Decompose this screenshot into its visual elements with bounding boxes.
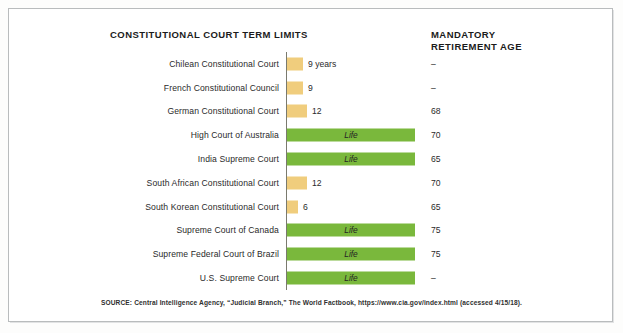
table-row: French Constitutional Council9– <box>0 76 623 100</box>
court-name-label: South African Constitutional Court <box>147 178 279 188</box>
bar-value-label: Life <box>287 130 415 140</box>
court-name-label: Supreme Court of Canada <box>176 225 279 235</box>
bar-value-label: Life <box>287 273 415 283</box>
mandatory-retirement-age-value: – <box>431 59 436 69</box>
bar-value-label: Life <box>287 154 415 164</box>
mandatory-retirement-age-value: 68 <box>431 106 441 116</box>
court-name-label: Chilean Constitutional Court <box>169 59 279 69</box>
plot-area: Chilean Constitutional Court9 years–Fren… <box>0 52 623 290</box>
bar-value-label: Life <box>287 249 415 259</box>
court-name-label: Supreme Federal Court of Brazil <box>153 249 279 259</box>
bar-value-label: 12 <box>312 178 322 188</box>
term-limit-bar <box>287 200 298 213</box>
table-row: U.S. Supreme CourtLife– <box>0 266 623 290</box>
table-row: South African Constitutional Court1270 <box>0 171 623 195</box>
source-note: SOURCE: Central Intelligence Agency, “Ju… <box>0 299 623 306</box>
bar-value-label: 6 <box>303 202 308 212</box>
table-row: Supreme Federal Court of BrazilLife75 <box>0 242 623 266</box>
mandatory-retirement-age-value: – <box>431 273 436 283</box>
term-limit-bar <box>287 105 307 118</box>
table-row: German Constitutional Court1268 <box>0 100 623 124</box>
column-header-line-1: MANDATORY <box>431 29 522 41</box>
court-name-label: U.S. Supreme Court <box>200 273 279 283</box>
table-row: High Court of AustraliaLife70 <box>0 123 623 147</box>
table-row: India Supreme CourtLife65 <box>0 147 623 171</box>
mandatory-retirement-age-value: 65 <box>431 202 441 212</box>
term-limit-bar <box>287 57 303 70</box>
court-name-label: India Supreme Court <box>198 154 279 164</box>
bar-value-label: 12 <box>312 106 322 116</box>
term-limit-bar <box>287 176 307 189</box>
mandatory-retirement-age-value: – <box>431 83 436 93</box>
bar-value-label: 9 <box>308 83 313 93</box>
mandatory-retirement-age-value: 70 <box>431 130 441 140</box>
court-name-label: German Constitutional Court <box>167 106 279 116</box>
mandatory-retirement-age-value: 65 <box>431 154 441 164</box>
table-row: Chilean Constitutional Court9 years– <box>0 52 623 76</box>
term-limit-bar <box>287 81 303 94</box>
table-row: Supreme Court of CanadaLife75 <box>0 219 623 243</box>
bar-value-label: 9 years <box>308 59 336 69</box>
mandatory-retirement-age-value: 75 <box>431 249 441 259</box>
court-name-label: South Korean Constitutional Court <box>145 202 279 212</box>
mandatory-retirement-age-header: MANDATORY RETIREMENT AGE <box>431 29 522 52</box>
mandatory-retirement-age-value: 75 <box>431 225 441 235</box>
court-name-label: French Constitutional Council <box>164 83 279 93</box>
table-row: South Korean Constitutional Court665 <box>0 195 623 219</box>
mandatory-retirement-age-value: 70 <box>431 178 441 188</box>
court-name-label: High Court of Australia <box>191 130 279 140</box>
bar-value-label: Life <box>287 225 415 235</box>
chart-title: CONSTITUTIONAL COURT TERM LIMITS <box>110 29 308 40</box>
chart-figure: CONSTITUTIONAL COURT TERM LIMITS MANDATO… <box>0 0 623 333</box>
column-header-line-2: RETIREMENT AGE <box>431 41 522 53</box>
